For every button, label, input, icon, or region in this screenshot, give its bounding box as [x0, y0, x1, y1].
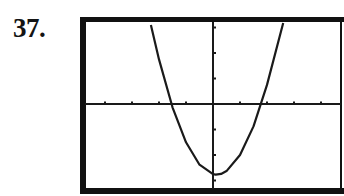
- calculator-graph: [0, 0, 344, 196]
